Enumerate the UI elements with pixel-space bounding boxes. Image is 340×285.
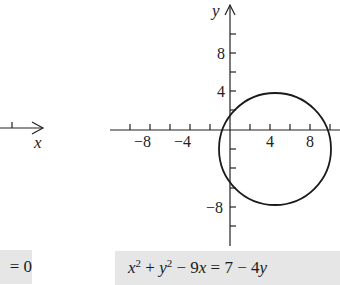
y-tick-label: 8 xyxy=(217,45,225,62)
eq-op: = 7 − 4 xyxy=(206,258,259,277)
figure-canvas: x −8 −4 4 8 8 4 −8 y xyxy=(0,0,340,285)
eq-term-x: x xyxy=(128,258,136,277)
right-equation-box: x2 + y2 − 9x = 7 − 4y xyxy=(115,251,340,285)
left-equation-fragment: = 0 xyxy=(10,257,32,276)
eq-term-y: y xyxy=(260,258,268,277)
y-tick-label: 4 xyxy=(217,83,225,100)
left-x-axis-label: x xyxy=(33,133,42,152)
eq-op: − 9 xyxy=(172,258,199,277)
right-y-axis xyxy=(225,5,236,246)
y-axis-label: y xyxy=(210,1,220,20)
eq-op: + xyxy=(141,258,159,277)
x-tick-label: −4 xyxy=(174,133,191,150)
x-tick-label: −8 xyxy=(134,133,151,150)
y-tick-label: −8 xyxy=(206,199,223,216)
eq-term-y: y xyxy=(159,258,167,277)
x-tick-label: 4 xyxy=(266,133,274,150)
left-equation-box: = 0 xyxy=(0,250,32,284)
x-tick-label: 8 xyxy=(306,133,314,150)
